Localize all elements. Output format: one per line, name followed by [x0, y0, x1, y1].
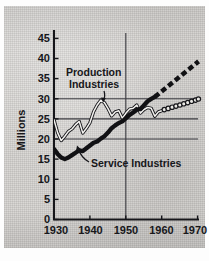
annotation-production-industries: Production Industries	[66, 66, 121, 103]
y-tick-label-25: 25	[38, 113, 50, 125]
y-tick-label-20: 20	[38, 133, 50, 145]
annotation-production-industries-line2: Industries	[69, 78, 119, 90]
series-service-industries-line	[54, 97, 155, 159]
chart-svg: 0 5 10 15 20 25 30 35 40 45 1930 1940 19…	[0, 0, 209, 261]
annotation-service-industries-label: Service Industries	[91, 157, 182, 169]
y-tick-label-35: 35	[38, 72, 50, 84]
chart-figure: 0 5 10 15 20 25 30 35 40 45 1930 1940 19…	[0, 0, 209, 261]
y-tick-label-45: 45	[38, 32, 50, 44]
y-tick-label-10: 10	[38, 173, 50, 185]
x-tick-label-1930: 1930	[44, 224, 68, 236]
y-axis-title: Millions	[15, 110, 27, 151]
y-tick-label-5: 5	[44, 193, 50, 205]
x-tick-label-1970: 1970	[183, 224, 207, 236]
y-tick-label-40: 40	[38, 52, 50, 64]
x-tick-label-1940: 1940	[78, 224, 102, 236]
series-service-industries-projection	[155, 61, 199, 97]
x-tick-label-1960: 1960	[149, 224, 173, 236]
x-tick-labels: 1930 1940 1950 1960 1970	[44, 224, 207, 236]
y-tick-label-30: 30	[38, 93, 50, 105]
annotation-service-industries: Service Industries	[76, 145, 182, 169]
y-tick-label-15: 15	[38, 153, 50, 165]
y-tick-labels: 0 5 10 15 20 25 30 35 40 45	[38, 32, 50, 225]
annotation-production-industries-line1: Production	[66, 66, 121, 78]
x-tick-label-1950: 1950	[114, 224, 138, 236]
